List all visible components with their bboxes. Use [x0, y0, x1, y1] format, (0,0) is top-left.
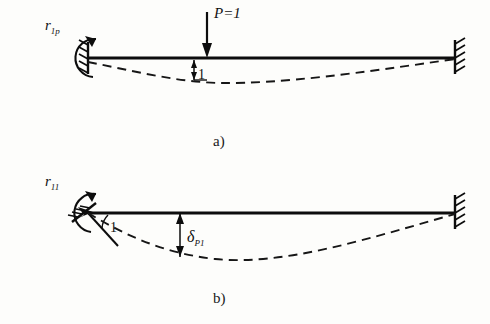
figure-canvas: r1p P=1 1 a) — [0, 0, 490, 324]
deflection-curve-b — [88, 213, 455, 260]
point-load-label-a: P=1 — [213, 5, 241, 21]
deflection-curve-a — [88, 59, 455, 83]
unit-displacement-label-a: 1 — [198, 67, 205, 82]
reaction-moment-label-b: r11 — [45, 173, 59, 192]
panel-b: 1 r11 — [45, 173, 465, 307]
right-fixed-support-a — [455, 38, 465, 74]
reaction-moment-label-a: r1p — [45, 17, 60, 36]
panel-caption-b: b) — [213, 290, 226, 307]
deflection-dimension-b — [176, 213, 184, 257]
point-load-arrow-a — [202, 12, 212, 58]
panel-a: r1p P=1 1 a) — [45, 5, 465, 150]
right-fixed-support-b — [455, 193, 465, 229]
deflection-label-b: δP1 — [187, 228, 204, 248]
structural-diagram-figure: r1p P=1 1 a) — [0, 0, 490, 324]
panel-caption-a: a) — [213, 133, 225, 150]
